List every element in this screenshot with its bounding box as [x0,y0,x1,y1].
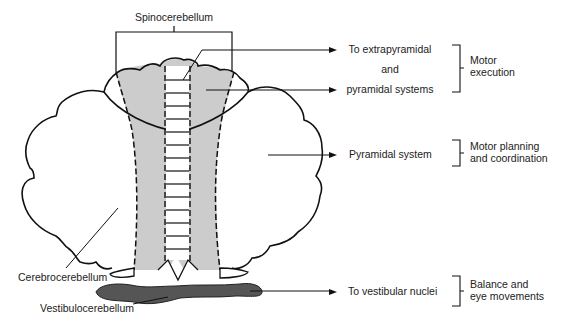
label-to-extrapyramidal: To extrapyramidal [340,44,440,55]
label-balance-2: eye movements [470,291,544,302]
label-cerebrocerebellum: Cerebrocerebellum [18,272,107,283]
label-motor-execution-1: Motor [470,55,497,66]
label-balance-1: Balance and [470,279,528,290]
arrow-icon [329,289,337,295]
label-motor-execution-2: execution [470,67,515,78]
label-to-vestibular-nuclei: To vestibular nuclei [348,286,437,297]
arrow-icon [329,87,337,93]
label-motor-planning-2: and coordination [470,153,548,164]
label-spinocerebellum: Spinocerebellum [134,12,214,23]
arrow-icon [329,47,337,53]
arrow-icon [329,152,337,158]
right-tonsil [220,268,248,278]
vestibulocerebellum-region [96,283,262,303]
label-and: and [340,64,440,75]
balance-bracket [452,276,464,306]
function-brackets [452,45,464,306]
label-pyramidal-system: Pyramidal system [349,149,432,160]
label-pyramidal-systems: pyramidal systems [340,84,440,95]
left-hemisphere [22,90,112,268]
label-motor-planning-1: Motor planning [470,141,539,152]
label-vestibulocerebellum: Vestibulocerebellum [40,303,134,314]
vermis-column [166,66,189,260]
left-tonsil [110,268,134,277]
right-hemisphere [232,87,322,268]
